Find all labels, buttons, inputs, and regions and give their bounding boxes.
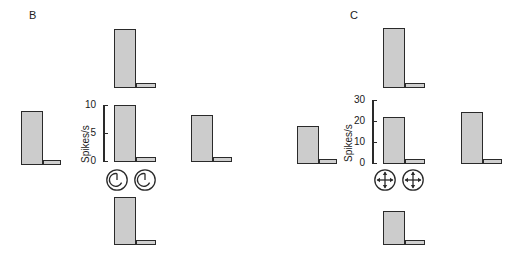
axis-tick-label-10: 10 [354,137,365,147]
axis-tick-0 [372,163,377,164]
panel-c: C 30 20 10 0 Spikes/s [258,0,516,254]
axis-tick-0 [103,161,108,162]
response-bar [114,197,136,245]
axis-spine [372,100,374,164]
bar-unit-top [383,28,425,88]
bar-unit-right [461,112,502,164]
axis-tick-label-0: 0 [359,158,365,168]
response-bar [114,105,136,162]
baseline-stub [405,159,425,164]
panel-c-label: C [350,9,358,21]
axis-tick-label-30: 30 [354,95,365,105]
axis-tick-30 [372,100,377,101]
bar-unit-bottom [114,197,156,245]
response-bar [297,126,319,164]
panel-b: B 10 5 0 Spikes/s [0,0,258,254]
expansion-icon [401,168,425,192]
axis-tick-label-20: 20 [354,116,365,126]
baseline-stub [136,83,156,88]
axis-tick-20 [372,121,377,122]
response-bar [383,211,405,245]
stimulus-pair-rotation [105,168,157,192]
baseline-stub [213,157,232,162]
expansion-icon [373,168,397,192]
axis-tick-label-0: 0 [90,156,96,166]
response-bar [21,111,43,165]
stimulus-pair-expansion [373,168,425,192]
y-axis-title: Spikes/s [80,125,91,163]
axis-tick-10 [372,142,377,143]
baseline-stub [405,83,425,88]
axis-tick-label-10: 10 [85,100,96,110]
axis-tick-label-5: 5 [90,128,96,138]
response-bar [114,29,136,88]
baseline-stub [136,240,156,245]
bar-unit-left [297,126,337,164]
response-bar [383,28,405,88]
response-bar [461,112,483,164]
axis-tick-5 [103,133,108,134]
bar-unit-left [21,111,61,165]
axis-tick-10 [103,105,108,106]
rotation-icon [105,168,129,192]
baseline-stub [43,160,61,165]
baseline-stub [319,159,337,164]
rotation-icon [133,168,157,192]
baseline-stub [483,159,502,164]
baseline-stub [405,240,425,245]
response-bar [191,115,213,162]
panel-b-label: B [29,9,37,21]
bar-unit-center [383,117,425,164]
baseline-stub [136,157,156,162]
bar-unit-right [191,115,232,162]
bar-unit-bottom [383,211,425,245]
figure-root: B 10 5 0 Spikes/s [0,0,516,254]
bar-unit-top [114,29,156,88]
y-axis-title: Spikes/s [343,124,354,162]
response-bar [383,117,405,164]
bar-unit-center [114,105,156,162]
